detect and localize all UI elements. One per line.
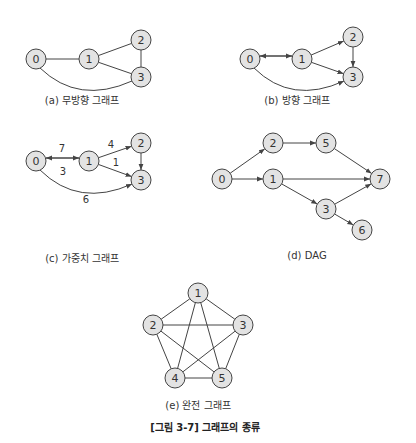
caption-complete-graph: (e) 완전 그래프: [165, 397, 230, 412]
svg-text:3: 3: [350, 71, 357, 84]
edge-c-0-3: [40, 170, 132, 193]
edge-weight-label: 1: [113, 157, 119, 168]
edge-b-1-3: [311, 62, 343, 73]
edge-weight-label: 7: [59, 143, 65, 154]
svg-text:3: 3: [240, 319, 247, 332]
node-b-0: 0: [240, 49, 260, 69]
svg-text:3: 3: [138, 71, 145, 84]
caption-undirected-graph: (a) 무방향 그래프: [45, 92, 119, 107]
node-e-3: 3: [233, 315, 253, 335]
svg-text:0: 0: [33, 155, 40, 168]
svg-text:4: 4: [172, 372, 179, 385]
node-d-3: 3: [316, 199, 336, 219]
node-b-1: 1: [292, 49, 312, 69]
edge-d-1-3: [282, 184, 318, 204]
node-e-5: 5: [212, 368, 232, 388]
edge-d-0-2: [230, 149, 265, 173]
node-d-2: 2: [263, 133, 283, 153]
node-b-2: 2: [343, 27, 363, 47]
svg-text:5: 5: [219, 372, 226, 385]
figure-title: [그림 3-7] 그래프의 종류: [150, 419, 260, 434]
svg-text:6: 6: [359, 224, 366, 237]
edge-e-3-5: [226, 334, 240, 368]
edge-e-2-5: [161, 331, 214, 372]
caption-weighted-graph: (c) 가중치 그래프: [45, 250, 119, 265]
svg-text:2: 2: [138, 34, 145, 47]
edge-b-0-3: [254, 68, 344, 90]
node-b-3: 3: [343, 67, 363, 87]
svg-text:1: 1: [86, 155, 93, 168]
edge-weight-label: 6: [83, 194, 89, 205]
edge-e-1-3: [206, 299, 235, 319]
svg-text:3: 3: [138, 174, 145, 187]
svg-text:1: 1: [86, 53, 93, 66]
node-d-6: 6: [352, 220, 372, 240]
caption-dag: (d) DAG: [287, 250, 326, 261]
svg-text:2: 2: [350, 31, 357, 44]
svg-text:7: 7: [377, 173, 384, 186]
svg-text:2: 2: [270, 137, 277, 150]
edge-e-2-4: [157, 334, 171, 369]
node-e-2: 2: [143, 315, 163, 335]
edge-d-5-7: [334, 149, 371, 174]
svg-text:1: 1: [299, 53, 306, 66]
edge-d-3-6: [335, 214, 354, 225]
graph-types-figure: 012301230123025173612345 73416: [0, 0, 416, 443]
edge-d-3-7: [335, 184, 372, 204]
edge-a-0-3: [40, 68, 132, 90]
edge-b-1-2: [311, 41, 344, 55]
svg-text:0: 0: [219, 173, 226, 186]
node-a-2: 2: [131, 30, 151, 50]
edge-e-1-4: [178, 303, 196, 369]
node-c-0: 0: [26, 151, 46, 171]
edge-weight-label: 3: [60, 166, 66, 177]
edge-e-1-2: [161, 299, 190, 319]
node-a-3: 3: [131, 67, 151, 87]
edge-e-1-5: [201, 303, 220, 369]
svg-text:0: 0: [247, 53, 254, 66]
node-d-1: 1: [263, 169, 283, 189]
svg-text:2: 2: [138, 137, 145, 150]
svg-text:3: 3: [323, 203, 330, 216]
edge-c-1-2: [98, 146, 131, 157]
edge-weight-label: 4: [108, 139, 114, 150]
node-a-1: 1: [79, 49, 99, 69]
edge-a-1-2: [98, 43, 131, 55]
caption-directed-graph: (b) 방향 그래프: [264, 92, 330, 107]
node-c-3: 3: [131, 170, 151, 190]
edge-a-1-3: [98, 62, 131, 73]
svg-text:1: 1: [195, 287, 202, 300]
node-e-1: 1: [188, 283, 208, 303]
svg-text:2: 2: [150, 319, 157, 332]
svg-text:0: 0: [33, 53, 40, 66]
node-d-5: 5: [316, 133, 336, 153]
svg-text:1: 1: [270, 173, 277, 186]
svg-text:5: 5: [323, 137, 330, 150]
node-d-7: 7: [370, 169, 390, 189]
node-e-4: 4: [165, 368, 185, 388]
node-d-0: 0: [212, 169, 232, 189]
node-a-0: 0: [26, 49, 46, 69]
node-c-2: 2: [131, 133, 151, 153]
node-c-1: 1: [79, 151, 99, 171]
